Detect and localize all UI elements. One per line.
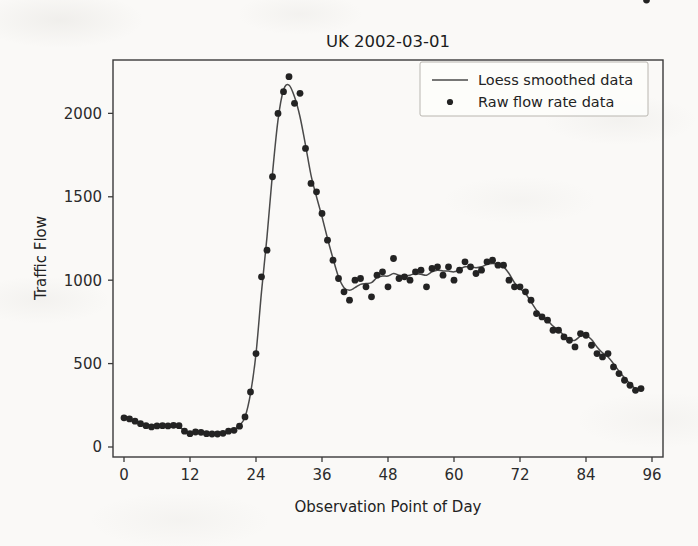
- raw-data-point: [247, 389, 254, 396]
- raw-data-point: [302, 145, 309, 152]
- raw-data-point: [605, 350, 612, 357]
- raw-data-point: [275, 110, 282, 117]
- chart-figure: UK 2002-03-01 Observation Point of Day T…: [0, 0, 698, 546]
- x-axis-ticks: 01224364860728496: [119, 457, 661, 484]
- raw-data-point: [445, 263, 452, 270]
- raw-data-point: [638, 385, 645, 392]
- raw-data-point: [324, 237, 331, 244]
- raw-data-point: [313, 188, 320, 195]
- raw-data-point: [528, 297, 535, 304]
- raw-data-point: [363, 283, 370, 290]
- raw-data-point: [566, 337, 573, 344]
- raw-data-point: [423, 283, 430, 290]
- legend: Loess smoothed data Raw flow rate data: [420, 62, 648, 116]
- legend-label-raw: Raw flow rate data: [478, 94, 614, 110]
- raw-data-point: [522, 288, 529, 295]
- raw-data-point: [451, 277, 458, 284]
- raw-data-point: [341, 288, 348, 295]
- raw-data-point: [616, 370, 623, 377]
- raw-data-point: [368, 293, 375, 300]
- x-tick-label: 48: [378, 466, 397, 484]
- raw-data-point: [506, 277, 513, 284]
- raw-data-point: [621, 377, 628, 384]
- raw-data-point: [572, 344, 579, 351]
- raw-data-point: [242, 414, 249, 421]
- legend-label-loess: Loess smoothed data: [478, 72, 633, 88]
- x-axis-label: Observation Point of Day: [295, 498, 482, 516]
- raw-data-point: [500, 262, 507, 269]
- raw-data-point: [489, 257, 496, 264]
- raw-data-point: [291, 100, 298, 107]
- raw-data-point: [286, 73, 293, 80]
- x-tick-label: 0: [119, 466, 129, 484]
- x-tick-label: 96: [642, 466, 661, 484]
- x-tick-label: 84: [576, 466, 595, 484]
- raw-data-point: [308, 180, 315, 187]
- loess-smoothed-line: [124, 85, 636, 434]
- y-tick-label: 1000: [64, 272, 102, 290]
- raw-data-point: [588, 342, 595, 349]
- raw-data-point: [440, 272, 447, 279]
- raw-data-point: [176, 422, 183, 429]
- y-axis-ticks: 0500100015002000: [64, 105, 113, 457]
- y-tick-label: 2000: [64, 105, 102, 123]
- raw-data-point: [236, 423, 243, 430]
- raw-data-point: [407, 277, 414, 284]
- y-tick-label: 500: [73, 355, 102, 373]
- raw-data-point: [297, 90, 304, 97]
- x-tick-label: 60: [444, 466, 463, 484]
- raw-data-point: [264, 247, 271, 254]
- x-tick-label: 36: [312, 466, 331, 484]
- raw-data-point: [418, 267, 425, 274]
- x-tick-label: 72: [510, 466, 529, 484]
- raw-data-point: [379, 268, 386, 275]
- x-tick-label: 24: [246, 466, 265, 484]
- chart-canvas: UK 2002-03-01 Observation Point of Day T…: [0, 0, 698, 546]
- raw-data-point: [627, 382, 634, 389]
- raw-data-point: [643, 0, 650, 3]
- x-tick-label: 12: [180, 466, 199, 484]
- raw-data-point: [231, 427, 238, 434]
- raw-data-point: [253, 350, 260, 357]
- raw-data-point: [462, 258, 469, 265]
- raw-data-point: [357, 275, 364, 282]
- raw-data-point: [346, 297, 353, 304]
- raw-data-point: [269, 173, 276, 180]
- raw-data-point: [544, 317, 551, 324]
- raw-data-point: [258, 273, 265, 280]
- raw-data-point: [434, 263, 441, 270]
- chart-title: UK 2002-03-01: [326, 32, 450, 51]
- raw-data-point: [456, 267, 463, 274]
- raw-data-point: [385, 283, 392, 290]
- y-tick-label: 1500: [64, 188, 102, 206]
- legend-marker-swatch: [447, 99, 453, 105]
- raw-data-point: [555, 327, 562, 334]
- raw-data-point: [330, 257, 337, 264]
- raw-data-point: [280, 88, 287, 95]
- raw-data-point: [583, 332, 590, 339]
- raw-data-point: [610, 364, 617, 371]
- raw-data-point: [467, 263, 474, 270]
- loess-line-path: [124, 85, 636, 434]
- y-axis-label: Traffic Flow: [32, 216, 50, 301]
- raw-data-point: [478, 267, 485, 274]
- raw-data-point: [390, 255, 397, 262]
- raw-data-point: [335, 275, 342, 282]
- y-tick-label: 0: [92, 438, 102, 456]
- plot-frame: [113, 60, 663, 457]
- raw-data-point: [517, 283, 524, 290]
- raw-data-point: [319, 210, 326, 217]
